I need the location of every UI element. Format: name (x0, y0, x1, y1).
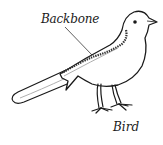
bird-legs (92, 84, 132, 113)
bird-backbone-diagram: Backbone Bird (0, 0, 163, 145)
bird-caption: Bird (113, 120, 139, 134)
backbone-leader-line (65, 27, 92, 55)
backbone-label: Backbone (41, 12, 99, 26)
bird-eye (133, 20, 137, 24)
